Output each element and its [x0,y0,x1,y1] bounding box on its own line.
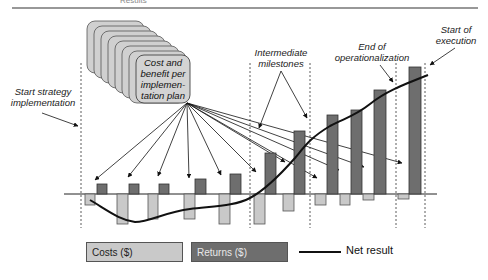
return-bar [97,184,107,194]
box-label-line4: tation plan [141,90,185,101]
end-op-line2: operationalization [335,52,409,63]
return-bar [159,184,169,194]
cost-bar [363,194,374,200]
header-fragment: Results [120,0,147,5]
cost-bar [315,194,326,205]
start-exec-line1: Start of [441,24,473,35]
milestones-line1: Intermediate [255,47,308,58]
legend-costs-label: Costs ($) [92,247,133,258]
annotation-start-execution: Start of execution [430,24,476,65]
cost-benefit-stack: Cost and benefit per implemen- tation pl… [87,21,190,103]
annotation-intermediate-milestones: Intermediate milestones [255,47,308,128]
legend-returns-label: Returns ($) [197,247,247,258]
legend-costs: Costs ($) [86,242,183,262]
end-op-line1: End of [358,41,387,52]
cost-bar [283,194,294,211]
return-bar [294,131,305,194]
return-bar [409,67,421,194]
return-bar [195,179,206,194]
cost-bar [184,194,195,219]
start-strategy-line2: implementation [11,97,75,108]
cost-bar [85,194,95,205]
cost-bar [340,194,350,205]
start-strategy-line1: Start strategy [15,86,73,97]
box-label-line2: benefit per [141,68,187,79]
annotation-start-strategy: Start strategy implementation [11,86,78,126]
box-label-line3: implemen- [141,79,185,90]
implementation-diagram: Results Cost and benefit per implemen- t… [0,0,488,280]
cost-bar [148,194,158,219]
box-label-line1: Cost and [144,57,183,68]
milestones-line2: milestones [258,58,304,69]
cost-bar [254,194,265,224]
legend-returns: Returns ($) [191,242,288,262]
start-exec-line2: execution [436,35,477,46]
cost-bar [219,194,230,224]
return-bar [374,90,386,194]
return-bar [230,174,241,194]
return-bar [351,110,362,194]
legend-net-label: Net result [346,244,393,256]
annotation-end-operationalization: End of operationalization [335,41,409,82]
cost-bar [398,194,409,199]
return-bar [265,153,276,194]
return-bar [129,184,139,194]
legend-net-line-swatch [299,251,341,253]
